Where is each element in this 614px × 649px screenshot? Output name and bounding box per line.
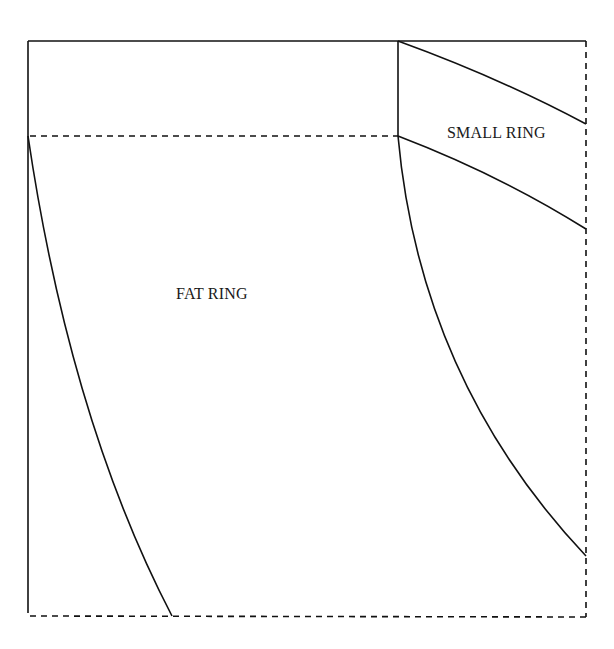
small-ring-label: SMALL RING bbox=[447, 124, 546, 142]
pattern-diagram bbox=[0, 0, 614, 649]
bottom-fold-line bbox=[30, 616, 586, 617]
fat-ring-label: FAT RING bbox=[176, 285, 248, 303]
fat-ring-inner-curve bbox=[28, 136, 172, 616]
small-ring-top-curve bbox=[398, 41, 586, 124]
fat-ring-outer-curve bbox=[398, 136, 586, 556]
small-ring-bottom-curve bbox=[398, 136, 586, 229]
